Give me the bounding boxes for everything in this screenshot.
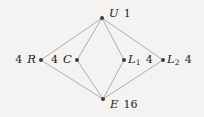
node-symbol-u: U bbox=[109, 6, 119, 20]
edge-c-e bbox=[77, 60, 103, 99]
node-value-c: 4 bbox=[51, 53, 58, 66]
node-subscript-l2: 2 bbox=[175, 58, 180, 67]
node-e[interactable] bbox=[101, 97, 105, 101]
node-subscript-l1: 1 bbox=[136, 58, 141, 67]
node-value-l2: 4 bbox=[185, 53, 192, 66]
node-value-r: 4 bbox=[15, 53, 22, 66]
node-c[interactable] bbox=[75, 58, 79, 62]
node-label-l2: L2 4 bbox=[167, 54, 192, 67]
node-symbol-l1: L1 bbox=[128, 52, 141, 66]
node-symbol-l2: L2 bbox=[167, 52, 180, 66]
node-symbol-r: R bbox=[27, 52, 36, 66]
node-symbol-c: C bbox=[63, 52, 72, 66]
node-l1[interactable] bbox=[122, 58, 126, 62]
node-label-l1: L1 4 bbox=[128, 54, 153, 67]
node-r[interactable] bbox=[39, 58, 43, 62]
node-label-u: U 1 bbox=[109, 8, 131, 20]
edge-u-c bbox=[77, 18, 102, 60]
lattice-diagram: U 14 R4 CL1 4L2 4E 16 bbox=[0, 0, 204, 117]
node-u[interactable] bbox=[100, 16, 104, 20]
node-value-e: 16 bbox=[123, 98, 137, 111]
node-label-r: 4 R bbox=[15, 54, 36, 66]
node-value-l1: 4 bbox=[146, 53, 153, 66]
edge-l1-e bbox=[103, 60, 124, 99]
node-value-u: 1 bbox=[124, 7, 131, 20]
node-l2[interactable] bbox=[161, 58, 165, 62]
node-symbol-e: E bbox=[110, 97, 119, 111]
edge-u-l1 bbox=[102, 18, 124, 60]
node-label-e: E 16 bbox=[110, 99, 138, 111]
node-label-c: 4 C bbox=[51, 54, 72, 66]
